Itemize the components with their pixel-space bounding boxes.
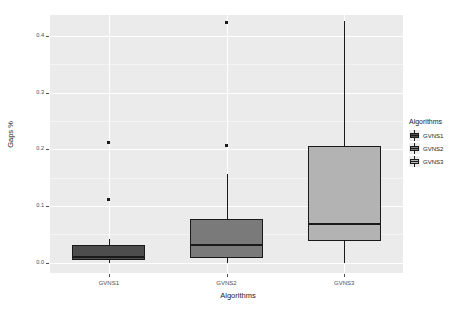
x-tick-mark: [227, 274, 228, 277]
legend-item-gvns2[interactable]: GVNS2: [409, 142, 475, 155]
box-gvns1[interactable]: [72, 245, 145, 260]
legend-item-gvns3[interactable]: GVNS3: [409, 155, 475, 168]
legend-label: GVNS2: [423, 146, 443, 152]
x-axis-title: Algorithms: [0, 291, 476, 300]
legend-label: GVNS3: [423, 159, 443, 165]
y-tick-mark: [46, 36, 49, 37]
whisker-lower: [344, 241, 345, 263]
x-tick-mark: [109, 274, 110, 277]
legend-entries: GVNS1GVNS2GVNS3: [409, 129, 475, 168]
outlier-point[interactable]: [225, 21, 228, 24]
y-tick-mark: [46, 93, 49, 94]
whisker-lower: [109, 260, 110, 263]
x-tick-label-gvns2: GVNS2: [197, 280, 257, 286]
outlier-point[interactable]: [225, 144, 228, 147]
median-line-gvns1: [72, 256, 145, 258]
whisker-lower: [227, 258, 228, 263]
box-gvns3[interactable]: [308, 146, 381, 241]
legend-swatch-gvns1: [409, 130, 420, 141]
x-tick-label-gvns1: GVNS1: [79, 280, 139, 286]
y-tick-label: 0.2: [36, 146, 44, 152]
legend-swatch-gvns3: [409, 156, 420, 167]
y-tick-mark: [46, 263, 49, 264]
y-tick-label: 0.3: [36, 90, 44, 96]
x-tick-label-gvns3: GVNS3: [314, 280, 374, 286]
y-axis-title: Gaps %: [6, 105, 15, 165]
y-tick-mark: [46, 149, 49, 150]
box-gvns2[interactable]: [190, 219, 263, 259]
y-tick-label: 0.4: [36, 33, 44, 39]
median-line-gvns3: [308, 223, 381, 225]
y-tick-mark: [46, 206, 49, 207]
y-tick-label: 0.0: [36, 260, 44, 266]
legend-swatch-gvns2: [409, 143, 420, 154]
chart-root: 0.00.10.20.30.4 Gaps % GVNS1GVNS2GVNS3 A…: [0, 0, 476, 315]
outlier-point[interactable]: [107, 198, 110, 201]
whisker-upper: [344, 21, 345, 146]
y-tick-label: 0.1: [36, 203, 44, 209]
whisker-upper: [227, 174, 228, 219]
outlier-point[interactable]: [107, 141, 110, 144]
legend-label: GVNS1: [423, 133, 443, 139]
legend-item-gvns1[interactable]: GVNS1: [409, 129, 475, 142]
median-line-gvns2: [190, 244, 263, 246]
legend: Algorithms GVNS1GVNS2GVNS3: [409, 118, 475, 168]
x-tick-mark: [344, 274, 345, 277]
legend-title: Algorithms: [409, 118, 475, 125]
plot-panel: [50, 15, 403, 273]
